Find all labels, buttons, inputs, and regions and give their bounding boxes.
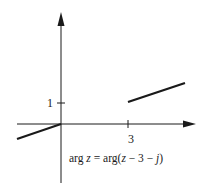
eq-prefix: arg [69, 152, 86, 165]
x-axis-arrow-icon [183, 121, 196, 128]
right-ray [128, 83, 185, 102]
eq-suffix1: − 3 − [126, 152, 156, 164]
equation-label: arg z = arg(z − 3 − j) [69, 152, 163, 165]
eq-mid: = arg( [91, 152, 122, 165]
eq-suffix2: ) [159, 152, 163, 165]
complex-plane-diagram: 1 3 arg z = arg(z − 3 − j) [0, 0, 205, 190]
y-tick-label: 1 [47, 96, 53, 110]
x-tick-label: 3 [128, 132, 134, 146]
y-axis-arrow-icon [58, 12, 65, 26]
left-ray [17, 124, 61, 139]
